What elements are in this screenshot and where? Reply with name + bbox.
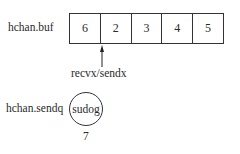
buffer-cell: 3 — [132, 14, 163, 43]
ring-buffer: 6 2 3 4 5 — [69, 13, 224, 44]
buffer-cell: 2 — [101, 14, 132, 43]
sudog-label: sudog — [72, 103, 99, 115]
sudog-node: sudog — [69, 92, 103, 126]
buffer-cell: 6 — [70, 14, 101, 43]
pointer-label: recvx/sendx — [71, 67, 127, 79]
buffer-cell: 4 — [162, 14, 193, 43]
pointer-arrow-icon — [100, 45, 104, 67]
buffer-cell: 5 — [193, 14, 223, 43]
sudog-value: 7 — [83, 130, 89, 142]
sendq-label: hchan.sendq — [6, 102, 63, 114]
buffer-label: hchan.buf — [8, 21, 54, 33]
